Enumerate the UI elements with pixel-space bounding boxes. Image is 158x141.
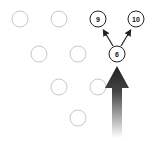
deflection-arrow-to-10 bbox=[121, 31, 130, 46]
diagram-canvas: 9 10 6 bbox=[0, 0, 158, 141]
ball-path-arrow-icon bbox=[105, 66, 129, 138]
pin-9-label: 9 bbox=[96, 16, 100, 23]
bowling-pin-diagram: 9 10 6 bbox=[0, 0, 158, 141]
pin-1-outline bbox=[70, 110, 86, 126]
pin-5-outline bbox=[70, 46, 86, 62]
deflection-arrow-to-9 bbox=[104, 31, 113, 46]
pin-7-outline bbox=[12, 11, 28, 27]
pin-8-outline bbox=[51, 11, 67, 27]
pin-3-outline bbox=[90, 79, 106, 95]
pin-2-outline bbox=[51, 79, 67, 95]
pin-4-outline bbox=[31, 46, 47, 62]
pin-10-label: 10 bbox=[132, 16, 140, 23]
pin-6-label: 6 bbox=[115, 51, 119, 58]
